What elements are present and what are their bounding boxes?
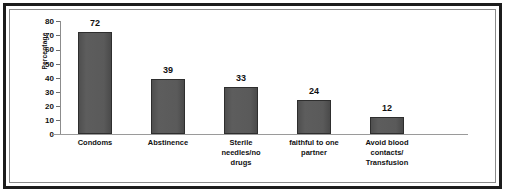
y-tick-label-0: 0 bbox=[34, 131, 54, 139]
bar-faithful-to-one-partner bbox=[297, 100, 331, 134]
x-category-label-abstinence: Abstinence bbox=[126, 138, 210, 148]
x-category-label-faithful-to-one-partner: faithful to one partner bbox=[272, 138, 356, 158]
bar-value-sterile-needles: 33 bbox=[221, 73, 261, 83]
y-tick-label-10: 10 bbox=[34, 117, 54, 125]
y-tick-label-60: 60 bbox=[34, 46, 54, 54]
bar-avoid-blood-contacts bbox=[370, 117, 404, 134]
y-tick-label-50: 50 bbox=[34, 61, 54, 69]
y-tick-label-20: 20 bbox=[34, 103, 54, 111]
bar-sterile-needles bbox=[224, 87, 258, 134]
bar-chart: Percentage 80 70 60 50 40 30 20 10 0 72 … bbox=[0, 0, 505, 192]
x-category-label-avoid-blood-contacts: Avoid blood contacts/ Transfusion bbox=[345, 138, 429, 168]
y-tick-label-40: 40 bbox=[34, 75, 54, 83]
bar-abstinence bbox=[151, 79, 185, 134]
x-axis-line bbox=[53, 134, 468, 135]
bar-value-abstinence: 39 bbox=[148, 65, 188, 75]
bar-condoms bbox=[78, 32, 112, 134]
x-category-label-condoms: Condoms bbox=[53, 138, 137, 148]
x-category-label-sterile-needles: Sterile needles/no drugs bbox=[199, 138, 283, 168]
y-axis-line bbox=[60, 21, 61, 135]
y-tick-label-80: 80 bbox=[34, 18, 54, 26]
bar-value-avoid-blood-contacts: 12 bbox=[367, 103, 407, 113]
bar-value-faithful-to-one-partner: 24 bbox=[294, 86, 334, 96]
y-tick-label-30: 30 bbox=[34, 89, 54, 97]
bar-value-condoms: 72 bbox=[75, 18, 115, 28]
chart-screenshot: Percentage 80 70 60 50 40 30 20 10 0 72 … bbox=[0, 0, 505, 192]
y-tick-label-70: 70 bbox=[34, 32, 54, 40]
